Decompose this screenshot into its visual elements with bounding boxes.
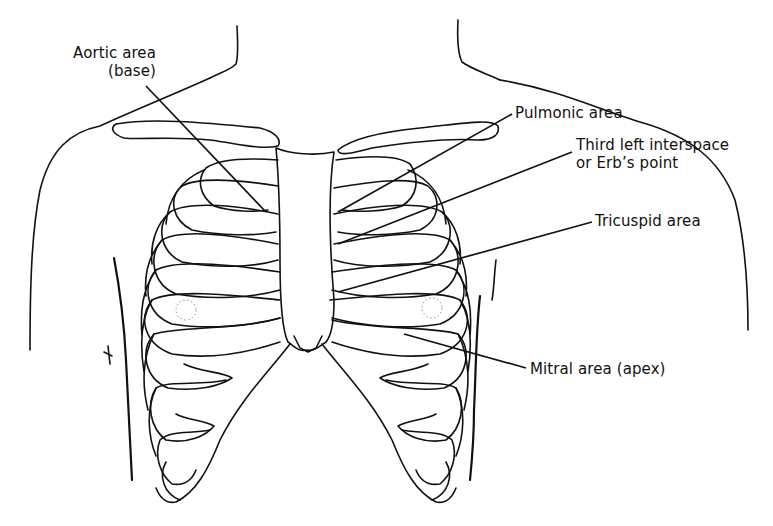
neck-right [458, 20, 500, 80]
label-pulmonic-area: Pulmonic area [515, 104, 623, 122]
label-erb-line2: or Erb’s point [576, 154, 729, 172]
label-erb-point: Third left interspace or Erb’s point [576, 136, 729, 172]
shoulder-left [30, 78, 210, 350]
clavicle-left [113, 121, 279, 147]
nipple-right [422, 298, 442, 318]
label-aortic-line2: (base) [28, 62, 156, 80]
label-tricuspid-area: Tricuspid area [595, 212, 701, 230]
label-erb-line1: Third left interspace [576, 136, 729, 154]
leader-tricuspid [338, 222, 592, 292]
label-tricuspid-line1: Tricuspid area [595, 212, 701, 230]
label-aortic-line1: Aortic area [73, 44, 156, 62]
label-pulmonic-line1: Pulmonic area [515, 104, 623, 122]
arm-left [114, 258, 132, 480]
label-mitral-area: Mitral area (apex) [530, 360, 666, 378]
leader-pulmonic [338, 114, 512, 212]
chest-diagram: Aortic area (base) Pulmonic area Third l… [0, 0, 773, 526]
arm-left-detail [104, 346, 112, 364]
label-mitral-line1: Mitral area (apex) [530, 360, 666, 378]
nipple-left [176, 300, 196, 320]
clavicle-right [338, 122, 498, 154]
ribs-left [141, 159, 290, 502]
sternum [276, 148, 334, 350]
label-aortic-area: Aortic area (base) [28, 44, 156, 80]
neck-left [210, 26, 238, 78]
arm-right [470, 296, 480, 480]
leader-aortic [146, 86, 266, 212]
arm-right-line [492, 260, 496, 300]
